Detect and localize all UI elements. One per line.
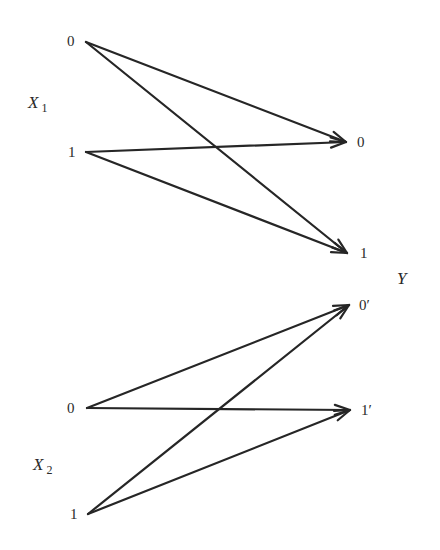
edge-x2_1-to-y_1p (88, 410, 350, 514)
output-y-label: Y (397, 269, 408, 288)
x2-node-1-label: 1 (70, 506, 78, 522)
x2-node-0-label: 0 (67, 400, 75, 416)
y-node-1-label: 1 (360, 245, 368, 261)
edge-x1_1-to-y_1 (86, 152, 347, 253)
edge-x2_0-to-y_0p (87, 305, 349, 408)
y-node-1-prime-label: 1′ (361, 402, 372, 418)
input-x1-label: X1 (27, 93, 47, 115)
channel-diagram: X1 0 1 X2 0 1 Y 0 1 0′ 1′ (0, 0, 440, 550)
x1-node-1-label: 1 (68, 144, 76, 160)
transition-edges (86, 42, 350, 514)
y-node-0-prime-label: 0′ (359, 297, 370, 313)
y-node-0-label: 0 (357, 134, 365, 150)
input-x2-label: X2 (32, 455, 52, 477)
edge-x1_0-to-y_0 (86, 42, 346, 142)
edge-x1_1-to-y_0 (86, 138, 346, 152)
node-labels: X1 0 1 X2 0 1 Y 0 1 0′ 1′ (27, 33, 408, 522)
x1-node-0-label: 0 (67, 33, 75, 49)
